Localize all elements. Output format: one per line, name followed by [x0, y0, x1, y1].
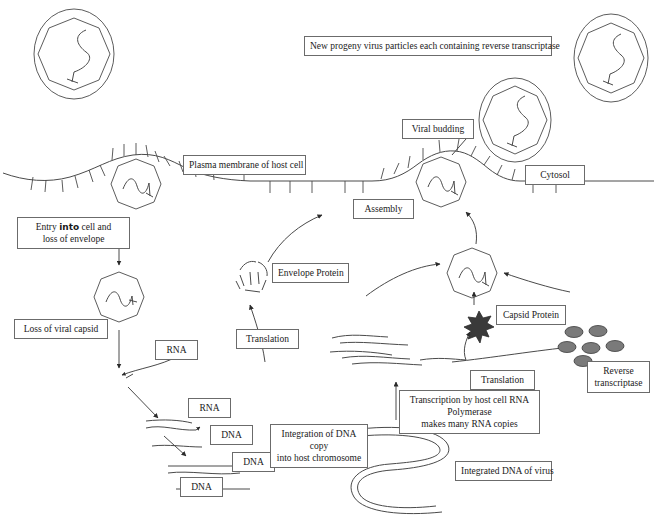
envelope-protein-fragments	[236, 261, 267, 292]
label-entry-part1: Entry	[36, 222, 59, 232]
label-rna-2: RNA	[188, 398, 231, 418]
label-cytosol: Cytosol	[525, 165, 585, 185]
label-translation-right: Translation	[470, 370, 535, 390]
virus-particle-assembled	[447, 248, 497, 298]
capsid-protein-star	[464, 311, 494, 343]
virus-particle-entering	[111, 159, 161, 209]
virus-particle-top-right	[574, 14, 648, 102]
arrow-rt-into-virion	[504, 273, 570, 292]
label-transcription-by-polymerase: Transcription by host cell RNA Polymeras…	[399, 390, 540, 434]
label-translation-left: Translation	[236, 329, 299, 349]
virus-particle-top-left	[34, 9, 114, 99]
rna-transcripts	[330, 335, 466, 365]
label-dna-3: DNA	[180, 477, 223, 497]
label-entry-into-cell: Entry into cell and loss of envelope	[17, 217, 130, 249]
label-viral-budding: Viral budding	[402, 119, 474, 139]
label-transcription-line1: Transcription by host cell RNA Polymeras…	[410, 395, 529, 417]
label-integration-line1: Integration of DNA copy	[282, 429, 357, 451]
label-envelope-protein: Envelope Protein	[272, 263, 349, 283]
label-rt-line1: Reverse	[603, 366, 634, 376]
label-assembly: Assembly	[353, 199, 414, 219]
label-capsid-protein: Capsid Protein	[496, 305, 566, 325]
label-entry-emphasis: into	[59, 222, 79, 232]
label-transcription-line2: makes many RNA copies	[421, 419, 517, 429]
label-dna-2: DNA	[232, 452, 275, 472]
plasma-membrane-budding-region	[332, 139, 654, 193]
diagram-canvas: New progeny virus particles each contain…	[0, 0, 657, 519]
label-rt-line2: transcriptase	[594, 378, 642, 388]
label-entry-part2: cell and	[79, 222, 111, 232]
label-integration-line2: into host chromosome	[277, 453, 361, 463]
virus-particle-budding-at-membrane	[416, 157, 466, 207]
arrow-envelope-inflow	[366, 264, 440, 296]
label-reverse-transcriptase: Reverse transcriptase	[587, 361, 650, 393]
arrow-translation-rt	[452, 347, 572, 362]
label-plasma-membrane: Plasma membrane of host cell	[183, 155, 306, 175]
arrow-envelope-to-assembly	[268, 215, 322, 262]
virus-capsid-uncoated	[94, 272, 144, 322]
label-integration-of-dna: Integration of DNA copy into host chromo…	[270, 424, 368, 468]
label-integrated-dna-of-virus: Integrated DNA of virus	[455, 461, 552, 481]
label-entry-line2: loss of envelope	[43, 234, 105, 244]
label-new-progeny-virus: New progeny virus particles each contain…	[304, 36, 552, 56]
arrow-assembly-to-membrane	[466, 212, 477, 244]
label-rna-1: RNA	[155, 340, 198, 360]
nucleic-acid-strands-lower-left	[146, 420, 202, 447]
label-dna-1: DNA	[210, 425, 253, 445]
label-loss-of-viral-capsid: Loss of viral capsid	[14, 319, 108, 339]
virus-particle-budded	[479, 78, 551, 162]
arrow-reverse-transcription	[128, 387, 158, 418]
